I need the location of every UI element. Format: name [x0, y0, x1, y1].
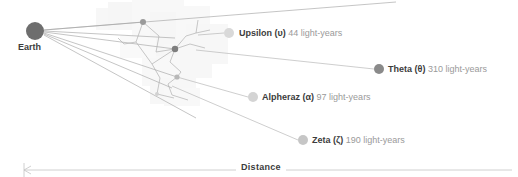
star-label-theta: Theta (θ) 310 light-years	[388, 64, 487, 75]
network-node-n4	[155, 92, 159, 96]
distance-axis-label: Distance	[236, 162, 286, 172]
star-distance-diagram: Earth Upsilon (υ) 44 light-years Theta (…	[0, 0, 518, 177]
star-greek-alpheraz: (α)	[303, 92, 315, 102]
star-greek-theta: (θ)	[415, 64, 426, 74]
star-name-alpheraz: Alpheraz	[262, 92, 300, 102]
star-name-theta: Theta	[388, 64, 412, 74]
star-nodes	[224, 28, 384, 145]
star-distance-unit-alpheraz: light-years	[329, 92, 371, 102]
earth-label: Earth	[18, 42, 41, 52]
star-node-upsilon	[224, 28, 234, 38]
network-node-n1	[140, 19, 146, 25]
star-node-theta	[374, 64, 384, 74]
star-distance-upsilon: 44	[288, 28, 298, 38]
star-node-alpheraz	[248, 92, 258, 102]
star-label-alpheraz: Alpheraz (α) 97 light-years	[262, 92, 371, 103]
star-distance-zeta: 190	[346, 135, 361, 145]
star-name-upsilon: Upsilon	[239, 28, 272, 38]
network-node-n3	[174, 74, 179, 79]
star-label-zeta: Zeta (ζ) 190 light-years	[312, 135, 405, 146]
star-greek-zeta: (ζ)	[333, 135, 343, 145]
star-node-zeta	[298, 135, 308, 145]
star-distance-unit-upsilon: light-years	[301, 28, 343, 38]
earth-node	[26, 22, 44, 40]
background-nebula-shape	[96, 0, 228, 106]
star-label-upsilon: Upsilon (υ) 44 light-years	[239, 28, 342, 39]
star-name-zeta: Zeta	[312, 135, 331, 145]
diagram-canvas	[0, 0, 518, 177]
star-distance-theta: 310	[428, 64, 443, 74]
network-node-n2	[172, 46, 178, 52]
star-distance-alpheraz: 97	[317, 92, 327, 102]
star-distance-unit-theta: light-years	[445, 64, 487, 74]
star-distance-unit-zeta: light-years	[363, 135, 405, 145]
star-greek-upsilon: (υ)	[275, 28, 286, 38]
